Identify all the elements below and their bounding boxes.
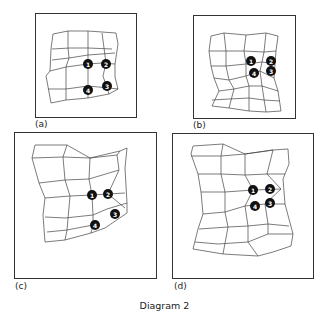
marker-1: 1 — [249, 58, 253, 65]
panel-c-label: (c) — [15, 281, 27, 291]
panel-d-label: (d) — [174, 281, 187, 291]
marker-2: 2 — [106, 191, 110, 198]
panel-a-label: (a) — [35, 119, 48, 129]
panel-b: 1 2 3 4 — [193, 15, 296, 119]
marker-2: 2 — [269, 58, 273, 65]
panel-d: 1 2 3 4 — [172, 133, 314, 279]
marker-4: 4 — [252, 70, 256, 77]
panel-c: 1 2 3 4 — [14, 132, 157, 279]
marker-4: 4 — [86, 87, 90, 94]
marker-1: 1 — [90, 192, 94, 199]
deformed-grid-a: 1 2 3 4 — [36, 14, 138, 119]
panel-a: 1 2 3 4 — [35, 13, 137, 118]
panel-b-label: (b) — [193, 120, 206, 130]
diagram-caption: Diagram 2 — [0, 300, 329, 311]
marker-2: 2 — [268, 186, 272, 193]
marker-4: 4 — [253, 203, 257, 210]
marker-4: 4 — [93, 222, 97, 229]
marker-2: 2 — [104, 61, 108, 68]
marker-1: 1 — [86, 61, 90, 68]
marker-3: 3 — [105, 83, 109, 90]
marker-1: 1 — [251, 187, 255, 194]
deformed-grid-b: 1 2 3 4 — [194, 16, 297, 120]
deformed-grid-c: 1 2 3 4 — [15, 133, 158, 280]
marker-3: 3 — [269, 68, 273, 75]
marker-3: 3 — [113, 211, 117, 218]
deformed-grid-d: 1 2 3 4 — [173, 134, 315, 280]
marker-3: 3 — [268, 200, 272, 207]
